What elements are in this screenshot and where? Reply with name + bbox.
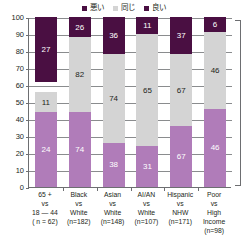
y-tick [26,69,29,70]
legend-label-bad: 悪い [90,4,104,12]
y-tick [26,18,29,19]
bar-segment-value: 24 [41,145,50,154]
bar-segment-value: 11 [42,98,50,107]
bar-segment-value: 46 [211,66,220,75]
y-tick [26,188,29,189]
legend-item-same: 同じ [113,4,135,12]
right-bracket-decoration [235,20,241,186]
gridline [29,120,232,121]
y-tick [26,103,29,104]
bar-segment-same[interactable]: 67 [170,54,192,125]
y-tick-label: 0 [20,184,24,192]
bar-segment-value: 65 [143,86,152,95]
bar-segment-good[interactable]: 31 [136,146,158,187]
bar-segment-bad[interactable]: 37 [170,17,192,54]
bar-segment-good[interactable]: 67 [170,126,192,187]
bar-group[interactable]: 748226 [69,17,91,187]
bar-segment-value: 38 [109,160,118,169]
bar-segment-same[interactable]: 11 [35,92,57,112]
x-category-line: Income [194,217,234,226]
legend-item-good: 良い [144,4,166,12]
bar-segment-same[interactable]: 65 [136,34,158,146]
y-tick [26,86,29,87]
bar-segment-value: 37 [177,31,186,40]
legend-label-good: 良い [152,4,166,12]
x-category-line: High [194,208,234,217]
gridline [29,171,232,172]
plot-area: 0102030405060708090100 24112774822638743… [28,18,231,188]
bar-segment-good[interactable]: 38 [103,143,125,187]
bar-group[interactable]: 387436 [103,17,125,187]
gridline [29,69,232,70]
y-tick-label: 30 [16,133,24,141]
bar-segment-good[interactable]: 46 [204,109,226,187]
bar-segment-bad[interactable]: 26 [69,17,91,37]
y-tick-label: 10 [16,167,24,175]
y-tick-label: 90 [16,31,24,39]
bar-segment-value: 46 [211,143,220,152]
x-category-line: Poor [194,190,234,199]
y-tick-label: 80 [16,48,24,56]
bar-segment-bad[interactable]: 6 [204,17,226,32]
bar-group[interactable]: 46466 [204,17,226,187]
bar-segment-value: 36 [109,31,118,40]
x-category-line: (n=98) [194,226,234,235]
gridline [29,35,232,36]
y-tick-label: 50 [16,99,24,107]
y-tick [26,120,29,121]
chart-legend: 悪い 同じ 良い [0,1,247,15]
bar-segment-bad[interactable]: 27 [35,17,57,82]
y-tick [26,154,29,155]
bar-segment-bad[interactable]: 11 [136,17,158,34]
bar-segment-good[interactable]: 74 [69,112,91,187]
bar-segment-same[interactable]: 46 [204,32,226,109]
gridline [29,52,232,53]
gridline [29,137,232,138]
y-tick-label: 70 [16,65,24,73]
legend-swatch-bad-icon [82,6,87,11]
y-tick-label: 60 [16,82,24,90]
gridline [29,18,232,19]
legend-swatch-same-icon [113,6,118,11]
bar-segment-value: 27 [41,45,50,54]
bar-segment-value: 74 [75,145,84,154]
y-tick [26,171,29,172]
bar-segment-value: 74 [109,94,118,103]
bar-group[interactable]: 241127 [35,17,57,187]
bar-segment-value: 67 [177,152,186,161]
bar-segment-value: 26 [75,23,84,32]
bar-group[interactable]: 316511 [136,17,158,187]
x-category-line: vs [194,199,234,208]
bar-segment-value: 82 [75,70,84,79]
y-tick-label: 20 [16,150,24,158]
y-tick-label: 40 [16,116,24,124]
bar-group[interactable]: 676737 [170,17,192,187]
bar-segment-value: 67 [177,86,186,95]
bar-segment-value: 6 [213,20,217,29]
x-axis-category-labels: 65 +vs18 — 44( n = 62)BlackvsWhite(n=182… [28,190,231,238]
gridline [29,103,232,104]
legend-item-bad: 悪い [82,4,104,12]
bar-segment-good[interactable]: 24 [35,112,57,187]
bar-segment-same[interactable]: 74 [103,54,125,142]
y-tick-label: 100 [11,14,24,22]
gridline [29,86,232,87]
gridline [29,154,232,155]
y-tick [26,35,29,36]
y-tick [26,52,29,53]
x-category-label: PoorvsHighIncome(n=98) [194,190,234,235]
legend-label-same: 同じ [121,4,135,12]
bar-segment-bad[interactable]: 36 [103,17,125,54]
legend-swatch-good-icon [144,6,149,11]
bar-segment-value: 31 [143,162,152,171]
bar-segment-same[interactable]: 82 [69,37,91,112]
bar-segment-value: 11 [143,21,151,30]
y-tick [26,137,29,138]
